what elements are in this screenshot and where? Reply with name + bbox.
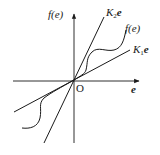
k2e-label: K2e <box>105 6 122 20</box>
k1e-label: K1e <box>132 43 149 57</box>
y-axis-label: f(e) <box>48 8 64 21</box>
x-axis-label: e <box>131 83 136 95</box>
origin-label: O <box>76 82 84 94</box>
sector-diagram: f(e) e O K2e K1e f(e) <box>0 0 160 155</box>
curve-label: f(e) <box>125 22 141 35</box>
